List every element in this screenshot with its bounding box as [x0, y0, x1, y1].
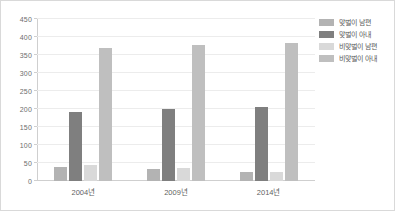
bar	[69, 112, 82, 181]
plot-area: 050100150200250300350400450 2004년2009년20…	[37, 19, 315, 181]
chart-legend: 맞벌이 남편맞벌이 아내비맞벌이 남편비맞벌이 아내	[319, 18, 377, 62]
legend-label: 비맞벌이 아내	[339, 53, 377, 63]
x-axis-category-label: 2009년	[130, 186, 223, 197]
legend-swatch	[319, 55, 334, 62]
y-axis-tick-label: 450	[20, 16, 32, 23]
y-axis-tick-label: 0	[28, 178, 32, 185]
bar	[270, 172, 283, 181]
y-axis-tick-label: 50	[24, 160, 32, 167]
bar	[240, 172, 253, 181]
y-axis-tick-label: 200	[20, 106, 32, 113]
legend-label: 맞벌이 남편	[339, 17, 371, 27]
y-axis-tick-label: 250	[20, 88, 32, 95]
bar-group: 2014년	[222, 19, 315, 181]
y-axis-tick-label: 400	[20, 34, 32, 41]
y-axis-tick-label: 100	[20, 142, 32, 149]
bar	[285, 43, 298, 181]
y-axis-tick-label: 350	[20, 52, 32, 59]
legend-item[interactable]: 비맞벌이 남편	[319, 42, 377, 50]
y-axis-tick-label: 150	[20, 124, 32, 131]
bar-group: 2009년	[130, 19, 223, 181]
bar	[99, 48, 112, 181]
x-axis-category-label: 2014년	[222, 186, 315, 197]
legend-swatch	[319, 31, 334, 38]
bar	[255, 107, 268, 181]
y-axis-tick-label: 300	[20, 70, 32, 77]
chart-figure: 050100150200250300350400450 2004년2009년20…	[0, 0, 395, 211]
legend-label: 비맞벌이 남편	[339, 41, 377, 51]
bar-group: 2004년	[37, 19, 130, 181]
bar	[162, 109, 175, 181]
legend-item[interactable]: 맞벌이 남편	[319, 18, 377, 26]
bar	[147, 169, 160, 181]
legend-label: 맞벌이 아내	[339, 29, 371, 39]
bar	[192, 45, 205, 181]
legend-swatch	[319, 19, 334, 26]
bar	[177, 168, 190, 181]
bar	[54, 167, 67, 181]
legend-item[interactable]: 맞벌이 아내	[319, 30, 377, 38]
legend-swatch	[319, 43, 334, 50]
legend-item[interactable]: 비맞벌이 아내	[319, 54, 377, 62]
x-axis-category-label: 2004년	[37, 186, 130, 197]
bar	[84, 165, 97, 181]
